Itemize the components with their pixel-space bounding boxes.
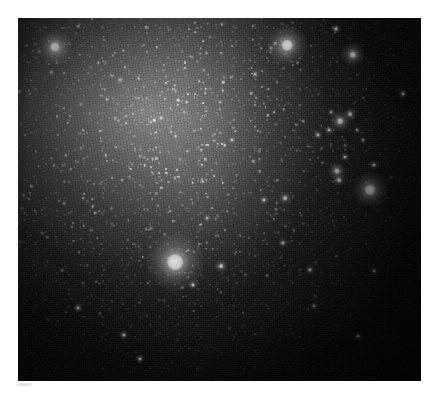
corner-tick-mark <box>17 383 31 386</box>
figure-root <box>0 0 440 402</box>
field-vignette <box>18 18 421 381</box>
astronomical-image-frame <box>18 18 421 381</box>
